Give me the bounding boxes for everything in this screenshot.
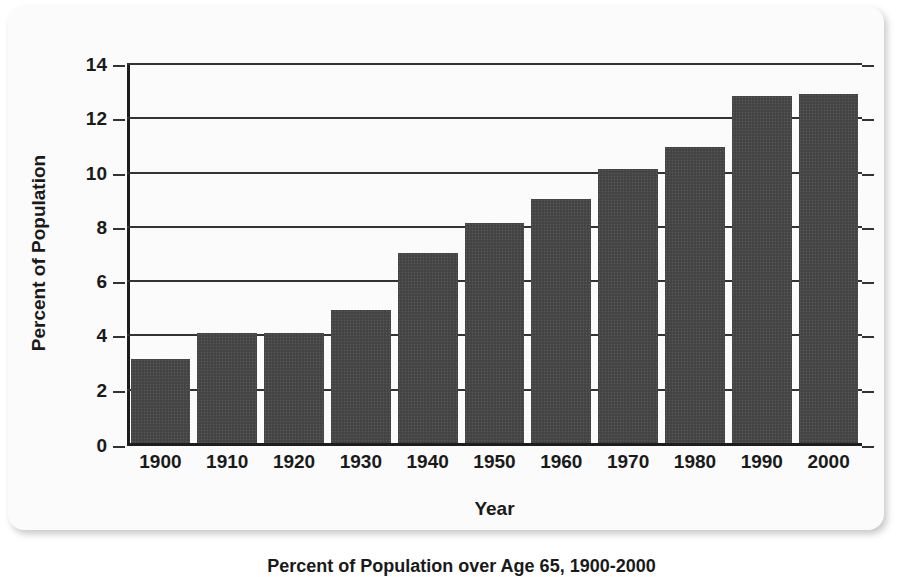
bars-group	[127, 63, 862, 443]
y-axis-tick-label: 12	[86, 108, 107, 130]
x-axis-tick-label: 1910	[206, 451, 248, 473]
bar[interactable]	[197, 333, 257, 443]
gridline: 0	[127, 443, 862, 446]
x-axis-tick-label: 1960	[540, 451, 582, 473]
y-axis-tick-mark-right	[862, 65, 874, 67]
y-axis-tick-mark	[113, 119, 125, 121]
bar[interactable]	[799, 94, 859, 443]
x-axis-tick-label: 1980	[674, 451, 716, 473]
bar[interactable]	[598, 169, 658, 443]
y-axis-tick-mark-right	[862, 391, 874, 393]
bar[interactable]	[465, 223, 525, 443]
x-axis-tick-label: 1900	[139, 451, 181, 473]
bar[interactable]	[264, 333, 324, 443]
y-axis-tick-mark-right	[862, 119, 874, 121]
bar[interactable]	[732, 96, 792, 443]
x-axis-title: Year	[127, 498, 862, 520]
y-axis-tick-label: 4	[96, 325, 107, 347]
y-axis-tick-mark-right	[862, 446, 874, 448]
y-axis-tick-mark-right	[862, 228, 874, 230]
figure-card: Percent of Population 02468101214 190019…	[8, 6, 884, 530]
y-axis-tick-mark-right	[862, 282, 874, 284]
bar-chart: Percent of Population 02468101214 190019…	[8, 6, 884, 530]
y-axis-tick-mark	[113, 228, 125, 230]
plot-area: 02468101214 1900191019201930194019501960…	[127, 63, 862, 443]
y-axis-tick-mark-right	[862, 174, 874, 176]
x-axis-tick-label: 1940	[407, 451, 449, 473]
x-axis-tick-label: 1970	[607, 451, 649, 473]
x-axis-tick-label: 1920	[273, 451, 315, 473]
bar[interactable]	[531, 199, 591, 443]
y-axis-tick-label: 2	[96, 380, 107, 402]
y-axis-tick-mark	[113, 282, 125, 284]
x-axis-tick-label: 1990	[741, 451, 783, 473]
y-axis-tick-label: 8	[96, 217, 107, 239]
bar[interactable]	[665, 147, 725, 443]
y-axis-tick-label: 14	[86, 54, 107, 76]
figure-caption: Percent of Population over Age 65, 1900-…	[0, 556, 923, 577]
y-axis-tick-label: 0	[96, 435, 107, 457]
y-axis-tick-mark	[113, 65, 125, 67]
y-axis-tick-mark-right	[862, 336, 874, 338]
y-axis-title: Percent of Population	[22, 63, 56, 443]
y-axis-tick-mark	[113, 336, 125, 338]
y-axis-tick-label: 6	[96, 271, 107, 293]
y-axis-title-label: Percent of Population	[28, 155, 50, 351]
y-axis-tick-mark	[113, 174, 125, 176]
x-axis-tick-label: 1930	[340, 451, 382, 473]
y-axis-tick-mark	[113, 446, 125, 448]
x-axis-tick-label: 1950	[473, 451, 515, 473]
bar[interactable]	[398, 253, 458, 443]
bar[interactable]	[131, 359, 191, 443]
x-axis-tick-label: 2000	[807, 451, 849, 473]
y-axis-tick-label: 10	[86, 163, 107, 185]
bar[interactable]	[331, 310, 391, 443]
y-axis-tick-mark	[113, 391, 125, 393]
